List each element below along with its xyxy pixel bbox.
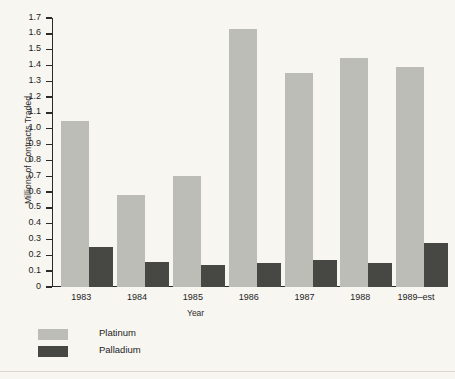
- x-axis-label-1988: 1988: [332, 292, 388, 302]
- y-axis-tick-label: 0.5: [28, 201, 41, 211]
- bar-palladium-1985: [201, 265, 225, 287]
- legend-label-palladium: Palladium: [99, 344, 141, 355]
- bar-palladium-1984: [145, 262, 169, 287]
- bar-group: [117, 18, 169, 287]
- bar-palladium-1988: [368, 263, 392, 287]
- x-axis-label-1983: 1983: [53, 292, 109, 302]
- y-axis-tick-label: 1.0: [28, 122, 41, 132]
- y-axis-tick-label: 1.6: [28, 27, 41, 37]
- bar-platinum-1984: [117, 195, 145, 287]
- bar-platinum-1986: [229, 29, 257, 287]
- bar-group: [173, 18, 225, 287]
- bar-platinum-1988: [340, 58, 368, 287]
- y-axis-tick-label: 1.3: [28, 75, 41, 85]
- bar-group: [285, 18, 337, 287]
- bar-platinum-1983: [61, 121, 89, 287]
- y-axis-tick-label: 0.9: [28, 138, 41, 148]
- y-axis-tick-label: 1.7: [28, 12, 41, 22]
- x-axis-label-1986: 1986: [221, 292, 277, 302]
- bar-palladium-1989est: [424, 243, 448, 287]
- x-axis-label-1989est: 1989–est: [388, 292, 444, 302]
- bar-palladium-1987: [313, 260, 337, 287]
- x-axis-label-1987: 1987: [277, 292, 333, 302]
- y-axis-tick-label: 0.4: [28, 217, 41, 227]
- bar-platinum-1989est: [396, 67, 424, 287]
- y-axis-tick-label: 0.7: [28, 170, 41, 180]
- x-axis-tick-labels: 1983198419851986198719881989–est: [53, 292, 444, 306]
- y-axis-tick-label: 1.5: [28, 43, 41, 53]
- x-axis-title: Year: [187, 308, 204, 318]
- bar-group: [340, 18, 392, 287]
- legend-swatch-palladium: [38, 346, 68, 357]
- y-axis-tick-label: 0.3: [28, 233, 41, 243]
- bottom-divider: [0, 371, 455, 372]
- y-axis-tick-label: 1.4: [28, 59, 41, 69]
- bars-layer: [53, 18, 444, 287]
- legend-label-platinum: Platinum: [99, 327, 136, 338]
- bar-group: [229, 18, 281, 287]
- y-axis-tick-label: 0.2: [28, 249, 41, 259]
- y-axis-ticks: 1.71.61.51.41.31.21.11.00.90.80.70.60.50…: [0, 18, 52, 287]
- y-axis-tick-label: 0.8: [28, 154, 41, 164]
- bar-group: [396, 18, 448, 287]
- y-axis-tick-label: 0: [36, 281, 41, 291]
- y-axis-tick-label: 0.1: [28, 265, 41, 275]
- bar-palladium-1986: [257, 263, 281, 287]
- bar-group: [61, 18, 113, 287]
- bar-platinum-1987: [285, 73, 313, 287]
- x-axis-label-1984: 1984: [109, 292, 165, 302]
- bar-palladium-1983: [89, 247, 113, 287]
- y-axis-tick-label: 1.2: [28, 91, 41, 101]
- bar-chart: Millions of Contracts Traded 1.71.61.51.…: [0, 0, 455, 379]
- x-axis-label-1985: 1985: [165, 292, 221, 302]
- legend-swatch-platinum: [38, 329, 68, 340]
- y-axis-tick-label: 0.6: [28, 186, 41, 196]
- bar-platinum-1985: [173, 176, 201, 287]
- y-axis-tick-label: 1.1: [28, 106, 41, 116]
